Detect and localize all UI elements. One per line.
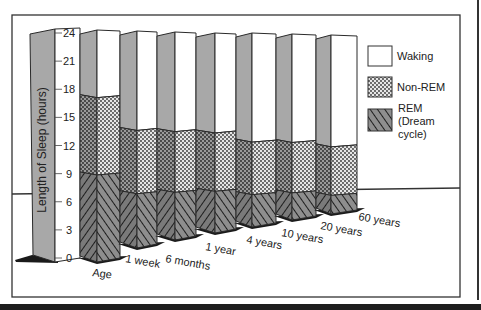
nonrem-segment [331,145,357,195]
y-tick-label: 18 [63,83,75,95]
y-tick-label: 21 [63,55,75,67]
legend-label-rem-3: cycle) [398,128,427,140]
rem-segment [137,192,157,248]
chart-figure: 03691215182124 1 week6 months1 year4 yea… [0,0,481,310]
y-tick-label: 24 [63,27,75,39]
legend-label-nonrem: Non-REM [397,81,445,93]
waking-segment [215,33,236,133]
rem-side [80,172,97,262]
rem-side [120,191,137,248]
waking-segment [292,34,316,143]
y-tick-label: 6 [66,196,72,208]
legend-label-rem-2: (Dream [398,115,435,127]
rem-segment [97,173,120,262]
nonrem-segment [252,140,276,195]
nonrem-side [157,129,175,193]
y-tick-label: 12 [63,140,75,152]
page-bottom-edge [0,304,481,310]
nonrem-segment [175,130,196,193]
legend-swatch-nonrem [368,77,392,97]
rem-side [157,189,175,240]
waking-side [120,31,137,130]
legend-label-waking: Waking [397,50,433,62]
y-tick-label: 15 [63,111,75,123]
waking-side [236,33,252,142]
y-tick-label: 3 [66,224,72,236]
rem-segment [331,193,357,214]
waking-segment [252,33,276,142]
waking-side [316,35,331,147]
legend-swatch-rem [368,109,392,131]
nonrem-segment [215,131,236,191]
rem-side [196,188,215,233]
waking-segment [137,31,157,130]
rem-segment [175,190,196,240]
waking-side [276,34,292,143]
legend-label-rem: REM [398,102,422,114]
rem-segment [252,193,276,227]
nonrem-segment [292,141,316,193]
waking-segment [175,32,196,132]
page-edge [477,0,479,300]
waking-side [157,32,175,132]
nonrem-side [80,95,97,175]
y-axis-title: Length of Sleep (hours) [35,87,49,212]
waking-side [196,33,215,133]
waking-side [80,30,97,98]
bar-60-years [314,35,365,216]
rem-segment [292,191,316,220]
nonrem-side [236,139,252,195]
rem-side [236,192,252,227]
nonrem-segment [137,128,157,193]
rem-segment [215,189,236,233]
waking-segment [97,30,120,98]
nonrem-segment [97,96,120,175]
nonrem-side [276,140,292,193]
y-tick-label: 0 [66,252,72,264]
nonrem-side [316,144,331,195]
nonrem-side [120,127,137,193]
nonrem-side [196,130,215,191]
y-tick-label: 9 [66,168,72,180]
legend-swatch-waking [368,46,392,66]
waking-segment [331,35,357,147]
sleep-chart-svg: 03691215182124 1 week6 months1 year4 yea… [0,0,481,310]
